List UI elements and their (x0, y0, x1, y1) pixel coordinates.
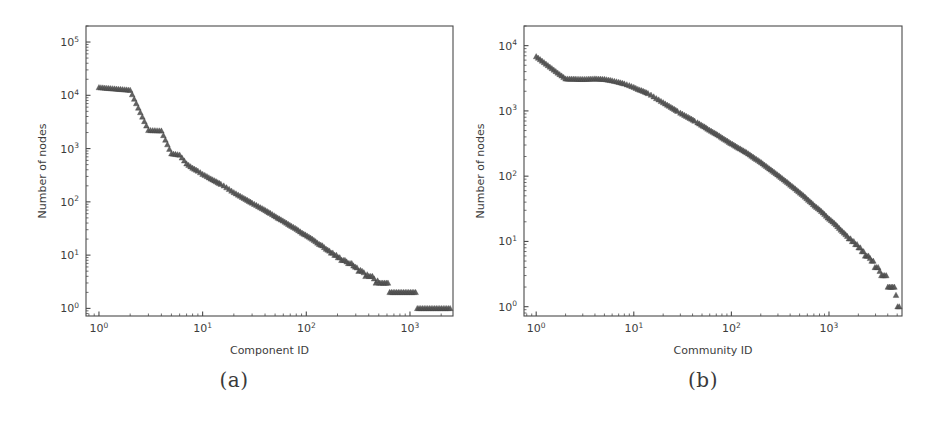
svg-text:100: 100 (527, 321, 546, 336)
scatter-plot-component-id: 100101102103100101102103104105Component … (0, 0, 468, 370)
figure-root: 100101102103100101102103104105Component … (0, 0, 937, 423)
svg-text:101: 101 (193, 321, 212, 336)
svg-text:102: 102 (297, 321, 316, 336)
svg-text:101: 101 (624, 321, 643, 336)
svg-text:103: 103 (60, 141, 79, 156)
svg-text:100: 100 (498, 299, 517, 314)
panel-b: 100101102103100101102103104Community IDN… (469, 0, 937, 423)
svg-text:105: 105 (60, 35, 79, 50)
svg-text:103: 103 (820, 321, 839, 336)
svg-text:102: 102 (60, 194, 79, 209)
panel-a: 100101102103100101102103104105Component … (0, 0, 468, 423)
panel-b-caption: (b) (469, 368, 937, 392)
svg-text:104: 104 (498, 38, 517, 53)
svg-text:101: 101 (498, 234, 517, 249)
svg-text:103: 103 (401, 321, 420, 336)
svg-text:Community ID: Community ID (674, 344, 753, 357)
svg-text:100: 100 (60, 301, 79, 316)
svg-text:Number of nodes: Number of nodes (474, 123, 487, 218)
svg-text:102: 102 (722, 321, 741, 336)
svg-text:100: 100 (90, 321, 109, 336)
svg-text:103: 103 (498, 103, 517, 118)
svg-text:Component ID: Component ID (230, 344, 309, 357)
svg-text:104: 104 (60, 88, 79, 103)
panel-a-caption: (a) (0, 368, 468, 392)
svg-text:101: 101 (60, 248, 79, 263)
svg-text:Number of nodes: Number of nodes (36, 123, 49, 218)
svg-text:102: 102 (498, 169, 517, 184)
scatter-plot-community-id: 100101102103100101102103104Community IDN… (469, 0, 937, 370)
